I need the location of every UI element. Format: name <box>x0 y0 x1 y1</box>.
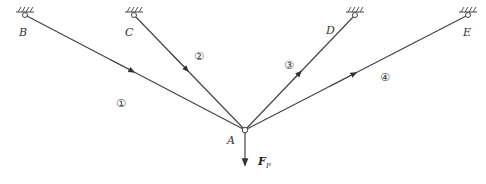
bar-label-2: ② <box>194 50 204 63</box>
truss-diagram: B C D E A ① ② ③ ④ F P <box>0 0 486 184</box>
support-e <box>459 7 477 18</box>
bar-2-arrow-icon <box>170 52 188 71</box>
support-b <box>16 7 34 18</box>
pin-c-icon <box>132 13 137 18</box>
node-a-pin-icon <box>242 127 248 133</box>
bar-1-arrow-icon <box>110 59 134 72</box>
bar-3 <box>245 15 355 130</box>
bar-label-4: ④ <box>380 71 390 84</box>
pin-d-icon <box>353 13 358 18</box>
label-a: A <box>226 134 235 147</box>
support-c <box>125 7 143 18</box>
force-subscript: P <box>265 162 271 170</box>
label-b: B <box>18 26 27 39</box>
pin-e-icon <box>466 13 471 18</box>
bar-2 <box>134 15 245 130</box>
label-c: C <box>125 26 134 39</box>
bar-4 <box>245 15 468 130</box>
bar-3-arrow-icon <box>286 71 301 87</box>
support-d <box>346 7 364 18</box>
bar-label-3: ③ <box>284 59 294 72</box>
pin-b-icon <box>23 13 28 18</box>
bar-label-1: ① <box>116 97 126 110</box>
bar-4-arrow-icon <box>330 73 356 86</box>
label-e: E <box>462 26 471 39</box>
bar-1 <box>25 15 245 130</box>
label-d: D <box>325 24 335 37</box>
